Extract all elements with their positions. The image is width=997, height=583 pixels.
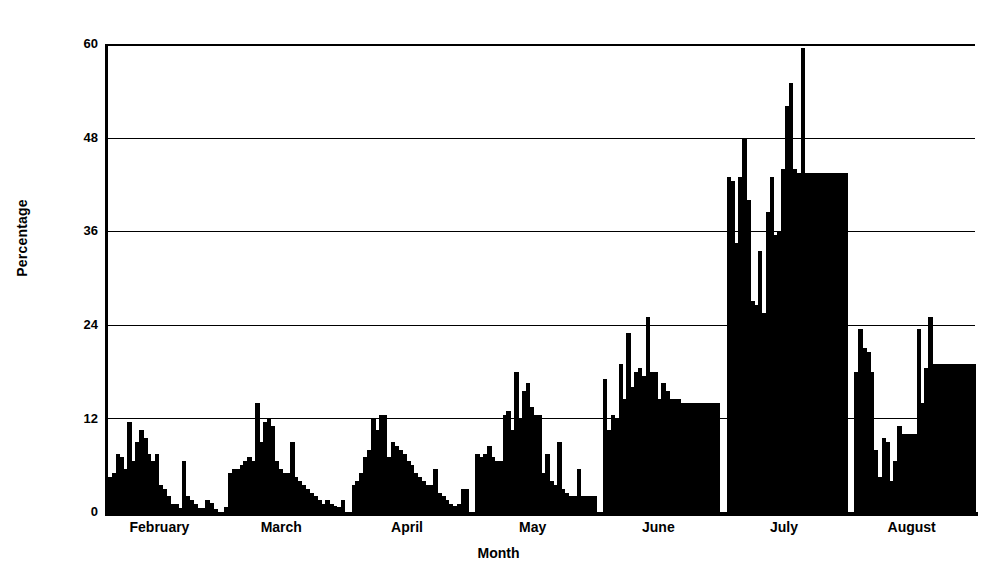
- month-group-may: [475, 44, 596, 512]
- y-tick-label: 24: [84, 317, 98, 332]
- month-label-april: April: [347, 519, 467, 535]
- month-group-june: [603, 44, 720, 512]
- y-tick-0: 0: [60, 505, 98, 518]
- month-group-february: [108, 44, 217, 512]
- month-label-february: February: [99, 519, 219, 535]
- month-label-june: June: [598, 519, 718, 535]
- bar: [213, 509, 217, 512]
- y-tick-36: 36: [60, 224, 98, 237]
- month-group-april: [352, 44, 469, 512]
- histogram-figure: Percentage 60 48 36 24 12 0 FebruaryMarc…: [0, 0, 997, 583]
- month-label-august: August: [852, 519, 972, 535]
- bar: [592, 496, 596, 512]
- y-axis-title: Percentage: [14, 178, 30, 298]
- y-tick-label: 48: [84, 130, 98, 145]
- month-group-august: [854, 44, 975, 512]
- month-label-march: March: [221, 519, 341, 535]
- y-tick-24: 24: [60, 318, 98, 331]
- bar: [716, 403, 720, 512]
- y-tick-label: 0: [91, 504, 98, 519]
- bar: [341, 500, 345, 512]
- bar: [843, 173, 847, 512]
- month-label-may: May: [473, 519, 593, 535]
- y-tick-label: 36: [84, 223, 98, 238]
- month-group-march: [224, 44, 345, 512]
- x-axis-baseline: [105, 512, 978, 516]
- y-tick-label: 12: [84, 411, 98, 426]
- month-group-july: [727, 44, 848, 512]
- plot-area: [105, 44, 975, 512]
- y-tick-60: 60: [60, 37, 98, 50]
- month-label-july: July: [724, 519, 844, 535]
- y-tick-48: 48: [60, 131, 98, 144]
- bar: [464, 489, 468, 512]
- y-tick-label: 60: [84, 36, 98, 51]
- bar: [971, 364, 975, 512]
- x-axis-title: Month: [0, 545, 997, 561]
- y-tick-12: 12: [60, 412, 98, 425]
